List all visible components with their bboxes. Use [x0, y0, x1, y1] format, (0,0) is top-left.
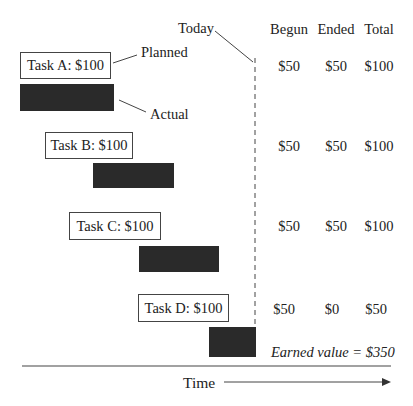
time-arrow-head	[382, 378, 391, 386]
task-d-ended: $0	[325, 302, 340, 317]
task-b-planned-box: Task B: $100	[45, 132, 133, 159]
column-header-begun: Begun	[270, 22, 308, 37]
task-a-actual-bar	[20, 84, 114, 111]
column-header-ended: Ended	[317, 22, 354, 37]
today-leader	[215, 31, 253, 62]
time-label: Time	[183, 375, 215, 391]
column-header-total: Total	[364, 22, 394, 37]
earned-value-label: Earned value = $350	[271, 345, 395, 360]
task-c-actual-bar	[139, 246, 219, 272]
today-label: Today	[178, 21, 214, 36]
actual-label: Actual	[150, 107, 189, 122]
task-a-planned-box: Task A: $100	[20, 52, 111, 79]
actual-leader	[119, 100, 146, 112]
task-b-actual-bar	[93, 163, 174, 188]
task-b-begun: $50	[278, 139, 300, 154]
task-d-actual-bar	[209, 327, 256, 357]
task-a-total: $100	[365, 59, 394, 74]
task-d-begun: $50	[273, 302, 295, 317]
task-d-total: $50	[365, 302, 387, 317]
task-a-ended: $50	[325, 59, 347, 74]
planned-leader	[113, 55, 137, 63]
task-c-begun: $50	[278, 219, 300, 234]
task-c-total: $100	[365, 219, 394, 234]
task-c-planned-box: Task C: $100	[69, 212, 161, 240]
task-a-begun: $50	[278, 59, 300, 74]
task-b-ended: $50	[325, 139, 347, 154]
planned-label: Planned	[141, 45, 188, 60]
task-b-total: $100	[365, 139, 394, 154]
task-d-planned-box: Task D: $100	[138, 294, 229, 322]
task-c-ended: $50	[325, 219, 347, 234]
